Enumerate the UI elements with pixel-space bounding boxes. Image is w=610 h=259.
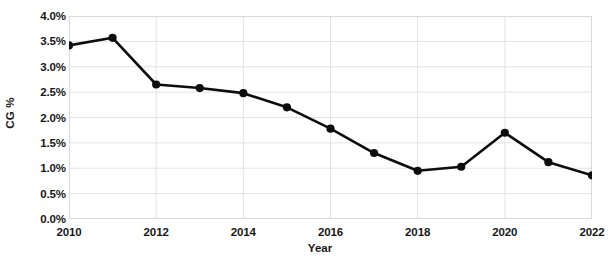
- x-axis-tick-label: 2010: [56, 226, 81, 238]
- y-axis-tick-label: 0.0%: [18, 213, 66, 225]
- y-axis-tick-labels: 0.0%0.5%1.0%1.5%2.0%2.5%3.0%3.5%4.0%: [16, 0, 66, 259]
- y-axis-tick-label: 4.0%: [18, 10, 66, 22]
- y-axis-tick-label: 1.0%: [18, 162, 66, 174]
- x-axis-tick-label: 2022: [579, 226, 604, 238]
- x-axis-tick-label: 2018: [405, 226, 430, 238]
- plot-area: [69, 16, 592, 219]
- x-axis-title: Year: [0, 242, 610, 254]
- x-axis-tick-label: 2012: [144, 226, 169, 238]
- x-axis-tick-label: 2020: [492, 226, 517, 238]
- data-point-marker: [108, 34, 116, 42]
- y-axis-tick-label: 0.5%: [18, 188, 66, 200]
- y-axis-tick-label: 2.0%: [18, 112, 66, 124]
- plot-svg: [69, 16, 592, 219]
- y-axis-tick-label: 1.5%: [18, 137, 66, 149]
- data-point-marker: [326, 125, 334, 133]
- x-axis-tick-label: 2016: [318, 226, 343, 238]
- data-point-marker: [283, 103, 291, 111]
- x-axis-title-text: Year: [308, 242, 332, 254]
- data-point-marker: [239, 89, 247, 97]
- y-axis-tick-label: 3.5%: [18, 35, 66, 47]
- data-point-marker: [501, 129, 509, 137]
- line-chart: CG % 0.0%0.5%1.0%1.5%2.0%2.5%3.0%3.5%4.0…: [0, 0, 610, 259]
- data-point-marker: [457, 163, 465, 171]
- y-axis-title: CG %: [4, 97, 16, 128]
- data-point-marker: [152, 80, 160, 88]
- y-axis-tick-label: 3.0%: [18, 61, 66, 73]
- data-point-marker: [544, 158, 552, 166]
- data-point-marker: [370, 149, 378, 157]
- data-point-marker: [196, 84, 204, 92]
- x-axis-tick-label: 2014: [231, 226, 256, 238]
- data-point-marker: [414, 167, 422, 175]
- y-axis-tick-label: 2.5%: [18, 86, 66, 98]
